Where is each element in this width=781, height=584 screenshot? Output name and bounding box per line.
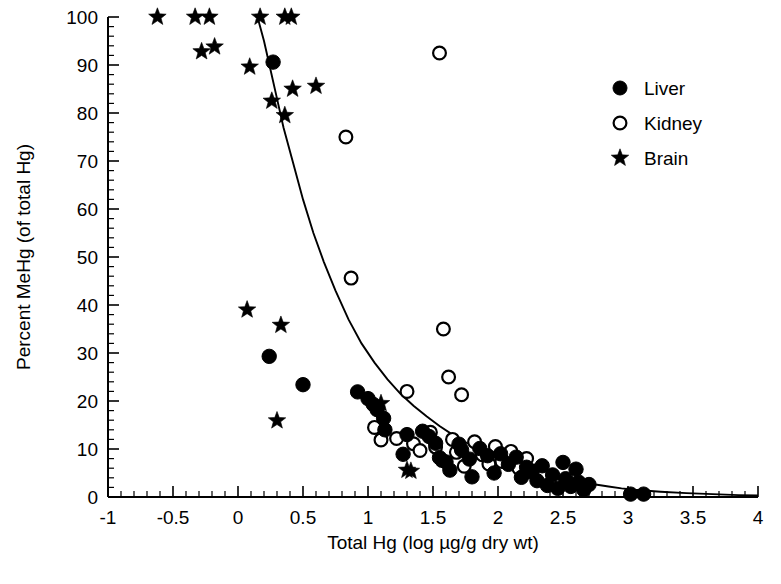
data-point-liver — [262, 349, 276, 363]
y-tick-label: 50 — [77, 247, 98, 268]
x-tick-label: -1 — [100, 507, 117, 528]
data-point-kidney — [455, 388, 468, 401]
data-point-liver — [400, 427, 414, 441]
x-tick-label: 0 — [233, 507, 244, 528]
data-point-brain — [149, 8, 167, 25]
y-axis-major-ticks — [108, 17, 119, 497]
data-point-brain — [251, 8, 269, 25]
x-tick-label: 0.5 — [290, 507, 316, 528]
x-tick-label: -0.5 — [157, 507, 190, 528]
data-point-kidney — [401, 385, 414, 398]
legend-label-brain: Brain — [644, 148, 688, 169]
data-point-kidney — [345, 272, 358, 285]
data-point-liver — [480, 449, 494, 463]
series-kidney-points — [340, 47, 549, 483]
x-tick-label: 2.5 — [550, 507, 576, 528]
y-axis-title: Percent MeHg (of total Hg) — [13, 144, 34, 370]
data-point-liver — [582, 477, 596, 491]
x-tick-label: 3 — [623, 507, 634, 528]
data-point-brain — [272, 316, 290, 333]
x-axis-title: Total Hg (log µg/g dry wt) — [327, 532, 539, 553]
y-tick-label: 70 — [77, 151, 98, 172]
x-tick-label: 1 — [363, 507, 374, 528]
y-tick-label: 100 — [66, 7, 98, 28]
y-tick-label: 10 — [77, 439, 98, 460]
data-point-kidney — [437, 323, 450, 336]
data-point-brain — [307, 77, 325, 94]
data-point-liver — [569, 462, 583, 476]
data-point-brain — [241, 58, 259, 75]
legend-marker-brain — [611, 149, 629, 166]
data-point-liver — [487, 466, 501, 480]
y-axis-tick-labels: 0102030405060708090100 — [66, 7, 98, 508]
data-point-liver — [266, 55, 280, 69]
data-point-brain — [238, 301, 256, 318]
data-point-kidney — [433, 47, 446, 60]
chart-figure: 0102030405060708090100 -1-0.500.511.522.… — [0, 0, 781, 584]
data-point-liver — [378, 423, 392, 437]
y-tick-label: 60 — [77, 199, 98, 220]
data-point-brain — [201, 8, 219, 25]
data-point-liver — [296, 377, 310, 391]
y-tick-label: 30 — [77, 343, 98, 364]
y-tick-label: 90 — [77, 55, 98, 76]
legend-label-liver: Liver — [644, 78, 686, 99]
legend: LiverKidneyBrain — [611, 78, 702, 169]
data-point-kidney — [414, 444, 427, 457]
data-point-brain — [284, 80, 302, 97]
x-tick-label: 3.5 — [680, 507, 706, 528]
data-point-brain — [186, 8, 204, 25]
series-brain-points — [149, 8, 420, 479]
legend-label-kidney: Kidney — [644, 113, 703, 134]
data-point-liver — [443, 463, 457, 477]
x-tick-label: 1.5 — [420, 507, 446, 528]
x-tick-label: 2 — [493, 507, 504, 528]
data-point-brain — [268, 411, 286, 428]
data-point-liver — [636, 487, 650, 501]
y-tick-label: 20 — [77, 391, 98, 412]
x-tick-label: 4 — [753, 507, 764, 528]
data-point-kidney — [340, 131, 353, 144]
data-point-liver — [396, 447, 410, 461]
y-tick-label: 80 — [77, 103, 98, 124]
data-point-liver — [465, 470, 479, 484]
x-axis-tick-labels: -1-0.500.511.522.533.54 — [100, 507, 764, 528]
data-point-liver — [428, 436, 442, 450]
data-point-kidney — [442, 371, 455, 384]
data-point-liver — [623, 487, 637, 501]
legend-marker-kidney — [614, 117, 627, 130]
data-point-liver — [556, 455, 570, 469]
y-tick-label: 40 — [77, 295, 98, 316]
legend-marker-liver — [613, 81, 627, 95]
scatter-plot: 0102030405060708090100 -1-0.500.511.522.… — [0, 0, 781, 584]
data-point-brain — [206, 38, 224, 55]
data-point-liver — [545, 468, 559, 482]
y-tick-label: 0 — [87, 487, 98, 508]
